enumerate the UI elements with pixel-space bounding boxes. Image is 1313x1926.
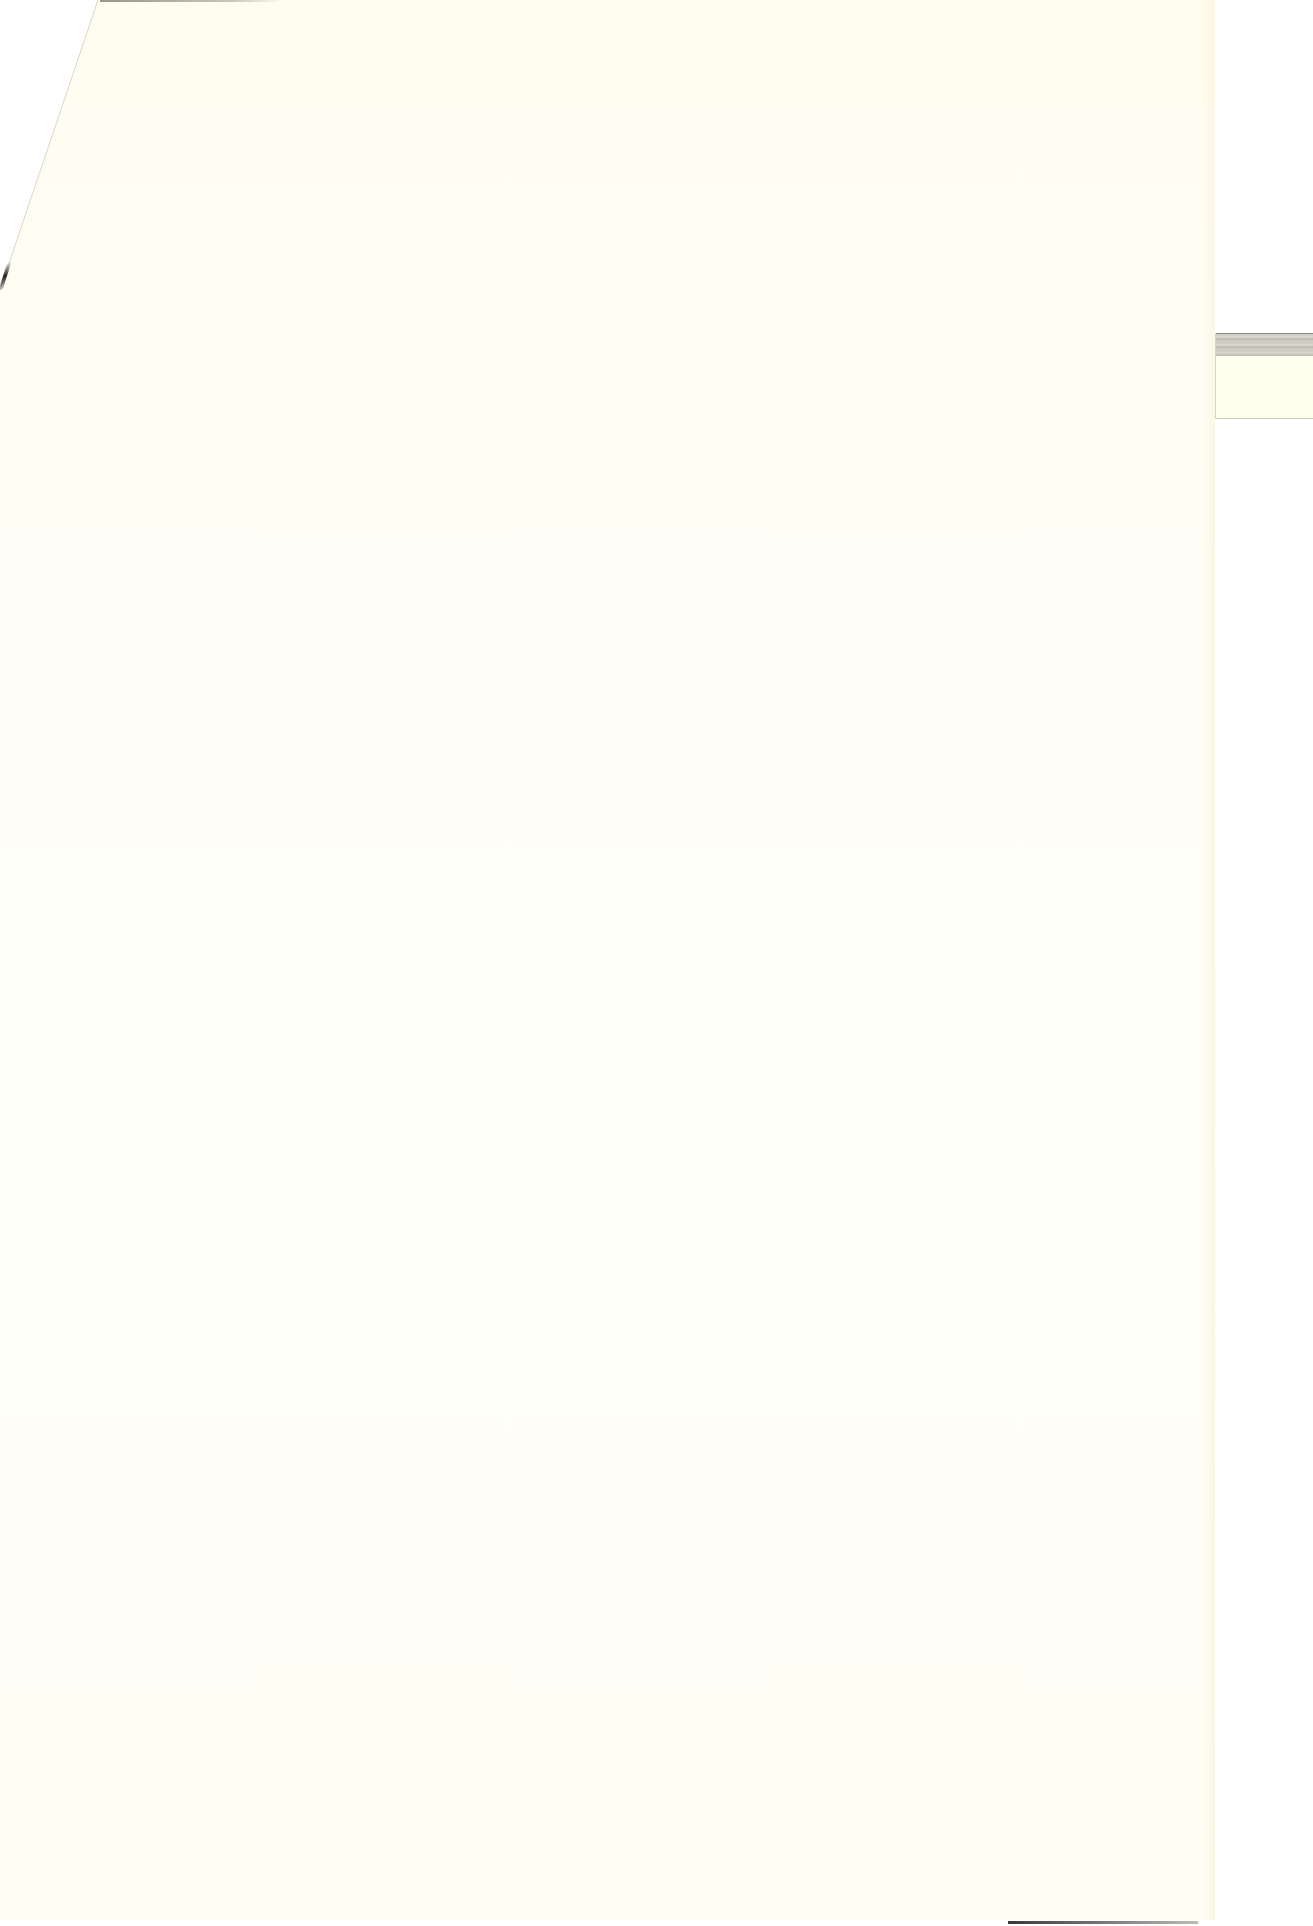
top-edge-shadow bbox=[100, 0, 285, 2]
page-body bbox=[120, 80, 1120, 1840]
index-tab bbox=[1215, 333, 1313, 419]
scan-background bbox=[0, 0, 1313, 1926]
bottom-edge-shadow bbox=[1008, 1921, 1198, 1924]
paper-sheet bbox=[0, 0, 1215, 1920]
index-tab-header bbox=[1216, 333, 1313, 356]
